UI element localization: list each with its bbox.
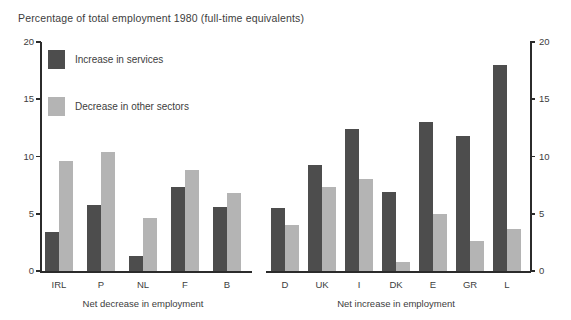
- bar-b-light: [227, 193, 241, 271]
- bar-p-dark: [87, 205, 101, 271]
- y-axis-right-label-20: 20: [539, 37, 557, 47]
- bar-p-light: [101, 152, 115, 271]
- bar-i-light: [359, 179, 373, 271]
- y-axis-right-label-10: 10: [539, 152, 557, 162]
- x-axis-right-group: [266, 271, 531, 273]
- group-label-net-decrease: Net decrease in employment: [45, 298, 241, 309]
- bar-f-light: [185, 170, 199, 271]
- y-axis-left-label-20: 20: [20, 37, 34, 47]
- bar-l-dark: [493, 65, 507, 271]
- bar-i-dark: [345, 129, 359, 271]
- x-axis-label-b: B: [201, 279, 253, 290]
- y-tick-r-15: [530, 98, 535, 100]
- plot-area: 0055101015152020IRLPNLFBDUKIDKEGRLNet de…: [0, 0, 571, 320]
- bar-gr-light: [470, 241, 484, 271]
- y-tick-r-20: [530, 41, 535, 43]
- y-tick-r-10: [530, 156, 535, 158]
- y-tick-r-5: [530, 213, 535, 215]
- legend-swatch-decrease-other-sectors: [48, 97, 65, 116]
- bar-e-dark: [419, 122, 433, 271]
- y-axis-right-label-5: 5: [539, 209, 557, 219]
- chart-container: Percentage of total employment 1980 (ful…: [0, 0, 571, 320]
- y-tick-l-20: [36, 41, 41, 43]
- y-tick-l-0: [36, 270, 41, 272]
- y-tick-l-5: [36, 213, 41, 215]
- bar-uk-light: [322, 187, 336, 271]
- bar-irl-dark: [45, 232, 59, 271]
- bar-d-dark: [271, 208, 285, 271]
- x-axis-left-group: [40, 271, 252, 273]
- bar-irl-light: [59, 161, 73, 271]
- bar-b-dark: [213, 207, 227, 271]
- bar-e-light: [433, 214, 447, 271]
- bar-dk-dark: [382, 192, 396, 271]
- y-tick-l-15: [36, 98, 41, 100]
- y-axis-right-label-15: 15: [539, 94, 557, 104]
- bar-gr-dark: [456, 136, 470, 271]
- y-axis-right-label-0: 0: [539, 266, 557, 276]
- bar-nl-light: [143, 218, 157, 271]
- legend-swatch-increase-services: [48, 50, 65, 69]
- y-axis-left-label-0: 0: [20, 266, 34, 276]
- group-label-net-increase: Net increase in employment: [271, 298, 521, 309]
- y-tick-r-0: [530, 270, 535, 272]
- y-axis-left-label-15: 15: [20, 94, 34, 104]
- bar-nl-dark: [129, 256, 143, 271]
- bar-l-light: [507, 229, 521, 271]
- bar-d-light: [285, 225, 299, 271]
- y-tick-l-10: [36, 156, 41, 158]
- bar-f-dark: [171, 187, 185, 271]
- legend-label-increase-services: Increase in services: [75, 50, 163, 69]
- bar-uk-dark: [308, 165, 322, 271]
- x-axis-label-l: L: [481, 279, 533, 290]
- legend-label-decrease-other-sectors: Decrease in other sectors: [75, 97, 189, 116]
- bar-dk-light: [396, 262, 410, 271]
- y-axis-left-label-5: 5: [20, 209, 34, 219]
- y-axis-left-label-10: 10: [20, 152, 34, 162]
